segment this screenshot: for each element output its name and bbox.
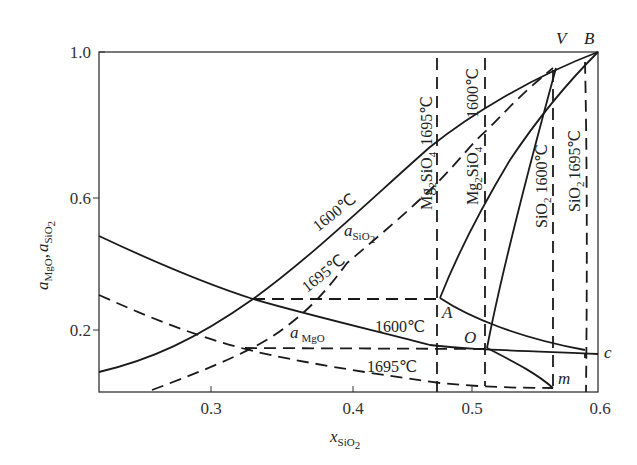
point-label-b: B (584, 29, 595, 48)
tie-line-lower (245, 348, 487, 349)
curve-a-to-c (440, 298, 585, 350)
boundary-sio2-1695 (585, 62, 587, 392)
label-amgo: aMgO (290, 323, 325, 344)
point-label-o: O (464, 328, 476, 347)
x-tick-0.5: 0.5 (461, 399, 482, 418)
y-tick-1.0: 1.0 (70, 43, 91, 62)
y-axis-label: aMgO,aSiO2 (33, 221, 57, 290)
point-label-a: A (441, 303, 453, 322)
x-tick-0.3: 0.3 (200, 399, 221, 418)
label-mg2sio4-1695: Mg2SiO41695℃ (418, 96, 438, 210)
point-label-m: m (558, 369, 570, 388)
label-asio2: aSiO2 (344, 221, 375, 245)
label-mg2sio4-1600-temp: 1600℃ (464, 68, 481, 118)
x-axis: 0.3 0.4 0.5 0.6 (200, 386, 610, 418)
x-tick-0.4: 0.4 (342, 399, 364, 418)
label-sio2-1600: SiO21600℃ (533, 144, 553, 228)
point-label-c: c (604, 343, 612, 362)
label-sio2-1695: SiO21695℃ (566, 130, 586, 212)
x-tick-0.6: 0.6 (589, 399, 610, 418)
point-label-v: V (556, 29, 569, 48)
curve-amgo-1600 (99, 236, 598, 354)
label-amgo-1695: 1695℃ (367, 358, 417, 375)
y-tick-0.6: 0.6 (70, 189, 91, 208)
y-tick-0.2: 0.2 (70, 321, 91, 340)
activity-chart: 1.0 0.6 0.2 0.3 0.4 0.5 0.6 xSiO2 aMgO,a… (0, 0, 637, 465)
label-amgo-1600: 1600℃ (375, 318, 425, 335)
x-axis-label: xSiO2 (329, 427, 360, 451)
curve-asio2-1695 (152, 68, 553, 390)
curve-o-to-m (487, 348, 553, 388)
label-mg2sio4-1600: Mg2SiO4 (464, 146, 484, 205)
